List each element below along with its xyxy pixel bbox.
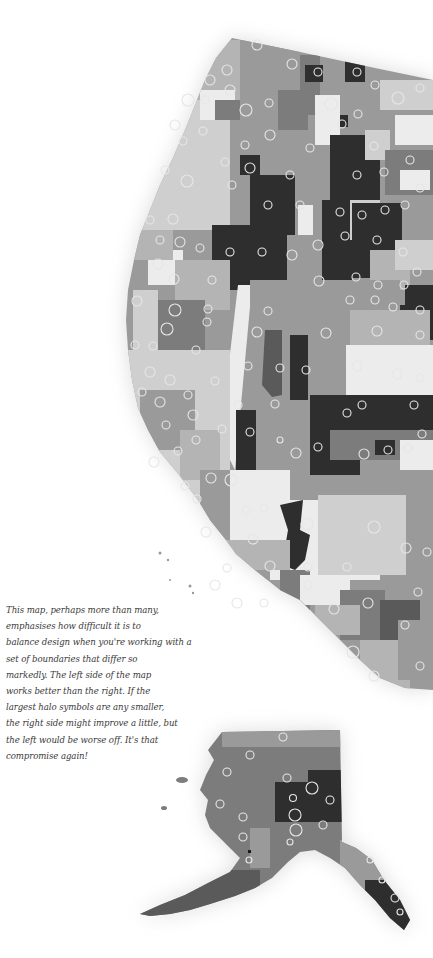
map-canvas: This map, perhaps more than many, emphas…: [0, 0, 433, 958]
annotation-line: compromise again!: [6, 748, 216, 764]
annotation-line: markedly. The left side of the map: [6, 667, 216, 683]
annotation-line: set of boundaries that differ so: [6, 651, 216, 667]
annotation-line: works better than the right. If the: [6, 683, 216, 699]
alaska-marker: [248, 850, 251, 853]
annotation-line: balance design when you're working with …: [6, 634, 216, 650]
annotation-line: This map, perhaps more than many,: [6, 602, 216, 618]
annotation-line: the right side might improve a little, b…: [6, 715, 216, 731]
map-annotation: This map, perhaps more than many, emphas…: [6, 602, 216, 764]
annotation-line: largest halo symbols are any smaller,: [6, 699, 216, 715]
annotation-line: the left would be worse off. It's that: [6, 732, 216, 748]
conus-regions: [120, 30, 433, 700]
annotation-line: emphasises how difficult it is to: [6, 618, 216, 634]
choropleth-map: [0, 0, 433, 958]
